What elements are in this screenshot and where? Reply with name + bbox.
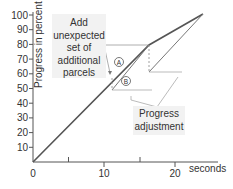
y-tick-90: 90 [17,24,29,35]
y-tick-10: 10 [17,142,29,153]
y-tick-30: 30 [17,112,29,123]
y-axis-label: Progress in percent [33,1,44,88]
arrow-head-icon [108,71,112,75]
series-b-adjusted-line [149,14,203,72]
x-tick-20: 20 [169,168,181,179]
callout-line: set of [52,42,106,55]
callout-line: Add [52,17,106,30]
series-b-line [112,45,149,90]
y-tick-labels: 100 90 80 70 60 50 40 30 20 10 [11,10,28,153]
y-tick-100: 100 [11,10,28,21]
y-tick-80: 80 [17,39,29,50]
callout-connector-adjust [131,77,178,107]
callout-line: adjustment [133,121,185,134]
callout-line: unexpected [52,30,106,43]
marker-a-label: A [117,59,122,66]
y-tick-70: 70 [17,54,29,65]
callout-line: Progress [133,108,185,121]
x-axis-label: seconds [189,163,226,174]
x-tick-0: 0 [30,168,36,179]
y-tick-20: 20 [17,127,29,138]
x-tick-10: 10 [98,168,110,179]
y-tick-60: 60 [17,68,29,79]
callout-progress-adjustment: Progress adjustment [133,106,185,135]
callout-line: parcels [52,67,106,80]
callout-add-parcels: Add unexpected set of additional parcels [52,14,106,78]
y-tick-40: 40 [17,98,29,109]
callout-line: additional [52,55,106,68]
marker-b-label: B [124,78,128,85]
y-tick-50: 50 [17,83,29,94]
chart-canvas: 100 90 80 70 60 50 40 30 20 10 0 10 20 s… [0,0,233,189]
